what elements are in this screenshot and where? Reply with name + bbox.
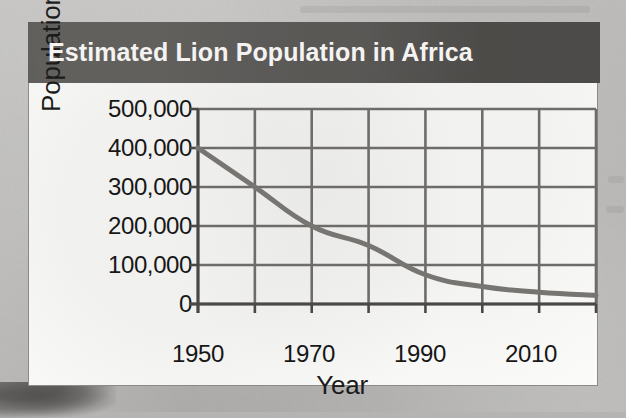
horizontal-gridlines [198,109,596,304]
axis-tick-marks [189,109,596,313]
chart-plot-area [28,22,600,388]
chart-card: Estimated Lion Population in Africa Popu… [28,22,600,388]
background-ghost-text [606,206,624,213]
background-ghost-text [300,6,590,13]
population-data-line [198,148,596,295]
chart-title: Estimated Lion Population in Africa [28,38,473,67]
vertical-gridlines [198,109,596,304]
background-ghost-text [608,176,624,183]
